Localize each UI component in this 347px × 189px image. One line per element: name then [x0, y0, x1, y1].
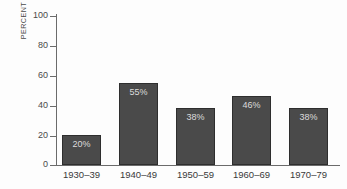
y-tick-40 — [50, 106, 57, 107]
y-tick-label-80-wrap: 80 — [20, 41, 48, 50]
bar-1930-39: 20% — [62, 135, 101, 165]
y-axis-line — [56, 14, 57, 166]
x-tick-label-1930-39: 1930–39 — [49, 169, 114, 180]
y-tick-0 — [50, 165, 57, 166]
bar-1970-79: 38% — [289, 108, 328, 165]
bar-value-1950-59: 38% — [177, 112, 214, 122]
y-tick-label-60-wrap: 60 — [20, 71, 48, 80]
y-tick-100 — [50, 16, 57, 17]
y-tick-label-80: 80 — [22, 41, 48, 50]
y-tick-label-100-wrap: 100 — [20, 11, 48, 20]
x-axis-line — [56, 165, 340, 166]
y-tick-label-20: 20 — [22, 131, 48, 140]
y-tick-label-40: 40 — [22, 101, 48, 110]
bar-1940-49: 55% — [119, 83, 158, 165]
y-tick-label-0-wrap: 0 — [20, 160, 48, 169]
y-tick-20 — [50, 136, 57, 137]
y-tick-label-100: 100 — [22, 11, 48, 20]
x-tick-label-1940-49: 1940–49 — [106, 169, 171, 180]
bar-1950-59: 38% — [176, 108, 215, 165]
bar-value-1940-49: 55% — [120, 87, 157, 97]
bar-chart: PERCENT OF GROWTH 100 80 60 40 20 0 20% … — [0, 0, 347, 189]
bar-value-1960-69: 46% — [233, 100, 270, 110]
y-tick-label-0: 0 — [22, 160, 48, 169]
y-tick-60 — [50, 76, 57, 77]
y-tick-label-40-wrap: 40 — [20, 101, 48, 110]
y-tick-label-20-wrap: 20 — [20, 131, 48, 140]
x-tick-label-1970-79: 1970–79 — [276, 169, 341, 180]
x-tick-label-1960-69: 1960–69 — [219, 169, 284, 180]
y-tick-80 — [50, 46, 57, 47]
y-tick-label-60: 60 — [22, 71, 48, 80]
bar-1960-69: 46% — [232, 96, 271, 165]
bar-value-1930-39: 20% — [63, 139, 100, 149]
bar-value-1970-79: 38% — [290, 112, 327, 122]
